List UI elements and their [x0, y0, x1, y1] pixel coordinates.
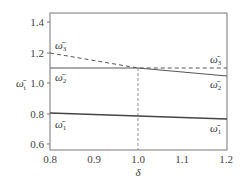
y-tick-1.0: 1.0 — [30, 77, 44, 89]
curve-omega1 — [50, 113, 227, 119]
y-tick-1.2: 1.2 — [30, 47, 44, 59]
y-axis-label: ω̄i — [16, 77, 27, 92]
y-tick-1.4: 1.4 — [30, 16, 44, 28]
y-tick-0.6: 0.6 — [30, 138, 44, 150]
label-omega3-left: ω̄3 — [55, 39, 67, 53]
label-omega1-right: ω̄1 — [210, 122, 222, 136]
x-tick-0.9: 0.9 — [87, 153, 101, 165]
y-axis: 1.4 1.2 1.0 0.8 0.6 ω̄i — [16, 16, 50, 150]
curve-omega3 — [50, 53, 227, 68]
chart: 1.4 1.2 1.0 0.8 0.6 ω̄i 0.8 0.9 1.0 1.1 … — [0, 0, 245, 180]
plot-frame — [50, 13, 227, 150]
x-tick-0.8: 0.8 — [43, 153, 57, 165]
x-tick-1.1: 1.1 — [175, 153, 189, 165]
x-tick-1.0: 1.0 — [131, 153, 145, 165]
label-omega1-left: ω̄1 — [55, 118, 67, 132]
x-tick-1.2: 1.2 — [219, 153, 233, 165]
label-omega2-right: ω̄2 — [210, 78, 222, 92]
x-axis: 0.8 0.9 1.0 1.1 1.2 δ — [43, 153, 233, 178]
curve-omega2 — [50, 68, 227, 76]
x-axis-label: δ — [135, 166, 141, 178]
y-tick-0.8: 0.8 — [30, 108, 44, 120]
label-omega3-right: ω̄3 — [210, 53, 222, 67]
label-omega2-left: ω̄2 — [55, 71, 67, 85]
